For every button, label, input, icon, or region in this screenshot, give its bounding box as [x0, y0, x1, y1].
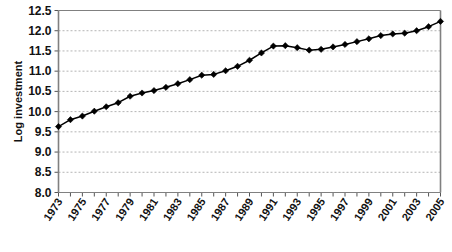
x-axis-ticks-group	[59, 193, 441, 197]
x-axis-tick-labels-group: 1973197519771979198119831985198719891991…	[41, 196, 447, 223]
x-tick-label-1985: 1985	[184, 196, 208, 223]
y-axis-tick-labels-group: 8.08.59.09.510.010.511.011.512.012.5	[28, 4, 52, 200]
x-tick-label-2001: 2001	[375, 196, 399, 223]
data-point-2001	[390, 31, 396, 37]
x-tick-label-1999: 1999	[351, 196, 375, 223]
x-tick-label-1989: 1989	[232, 196, 256, 223]
x-tick-label-1993: 1993	[280, 196, 304, 223]
y-tick-label-8.0: 8.0	[35, 186, 52, 200]
data-point-1996	[330, 44, 336, 50]
data-point-1992	[282, 43, 288, 49]
data-point-1974	[67, 117, 73, 123]
y-tick-label-12.5: 12.5	[28, 4, 52, 18]
data-point-2004	[425, 24, 431, 30]
data-point-1980	[139, 90, 145, 96]
data-point-1975	[79, 113, 85, 119]
x-tick-label-2003: 2003	[399, 196, 423, 223]
data-point-2000	[378, 32, 384, 38]
y-tick-label-10.0: 10.0	[28, 105, 52, 119]
x-tick-label-1997: 1997	[328, 196, 352, 223]
x-tick-label-1983: 1983	[160, 196, 184, 223]
x-tick-label-2005: 2005	[423, 196, 447, 223]
log-investment-line-chart: 8.08.59.09.510.010.511.011.512.012.5 197…	[0, 0, 452, 252]
y-tick-label-8.5: 8.5	[35, 165, 52, 179]
y-axis-label: Log investment	[12, 61, 24, 143]
x-tick-label-1981: 1981	[137, 196, 161, 223]
data-line	[59, 21, 441, 126]
data-point-1993	[294, 45, 300, 51]
y-axis-label-group: Log investment	[12, 61, 24, 143]
data-point-1977	[103, 104, 109, 110]
y-tick-label-12.0: 12.0	[28, 24, 52, 38]
x-tick-label-1995: 1995	[304, 196, 328, 223]
data-point-1985	[199, 72, 205, 78]
data-point-2003	[414, 28, 420, 34]
x-tick-label-1977: 1977	[89, 196, 113, 223]
y-tick-label-11.0: 11.0	[29, 64, 52, 78]
data-point-1986	[211, 71, 217, 77]
x-tick-label-1991: 1991	[256, 196, 280, 223]
data-point-1981	[151, 87, 157, 93]
gridlines-group	[59, 31, 441, 193]
y-tick-label-9.0: 9.0	[35, 145, 52, 159]
data-point-1999	[366, 36, 372, 42]
data-point-1973	[55, 123, 61, 129]
data-point-1995	[318, 46, 324, 52]
data-point-1984	[187, 77, 193, 83]
x-tick-label-1975: 1975	[65, 196, 89, 223]
data-point-2005	[437, 18, 443, 24]
x-tick-label-1973: 1973	[41, 196, 65, 223]
data-point-1994	[306, 47, 312, 53]
axes-group	[59, 11, 441, 193]
data-point-1983	[175, 81, 181, 87]
data-point-1997	[342, 41, 348, 47]
x-tick-label-1987: 1987	[208, 196, 232, 223]
data-point-1976	[91, 108, 97, 114]
data-point-1979	[127, 93, 133, 99]
data-point-1988	[234, 63, 240, 69]
data-series-group	[55, 18, 443, 129]
y-tick-label-10.5: 10.5	[28, 84, 52, 98]
data-point-1978	[115, 100, 121, 106]
y-tick-label-11.5: 11.5	[29, 44, 52, 58]
data-point-1982	[163, 84, 169, 90]
x-tick-label-1979: 1979	[113, 196, 137, 223]
data-point-1987	[223, 68, 229, 74]
y-tick-label-9.5: 9.5	[35, 125, 52, 139]
chart-figure: 8.08.59.09.510.010.511.011.512.012.5 197…	[0, 0, 452, 252]
data-point-1998	[354, 39, 360, 45]
data-point-1991	[270, 43, 276, 49]
